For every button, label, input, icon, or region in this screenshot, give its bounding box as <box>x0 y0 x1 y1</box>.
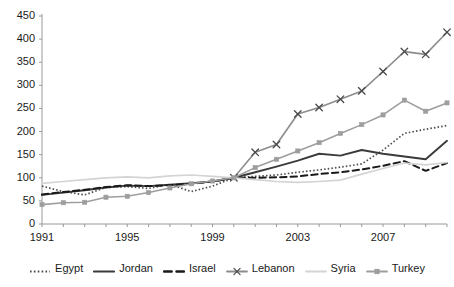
series-marker-turkey <box>402 98 406 102</box>
legend-item-turkey[interactable]: Turkey <box>366 262 425 274</box>
y-tick-label: 0 <box>0 218 35 229</box>
series-marker-turkey <box>445 101 449 105</box>
x-tick-label: 2007 <box>367 232 399 243</box>
y-tick-label: 450 <box>0 10 35 21</box>
legend-item-egypt[interactable]: Egypt <box>29 262 83 274</box>
series-marker-lebanon <box>337 96 344 103</box>
series-marker-turkey <box>83 200 87 204</box>
y-tick-label: 300 <box>0 79 35 90</box>
series-marker-turkey <box>210 179 214 183</box>
series-marker-turkey <box>317 141 321 145</box>
legend-swatch-turkey-icon <box>366 263 388 274</box>
x-tick-label: 1991 <box>26 232 58 243</box>
series-marker-turkey <box>40 202 44 206</box>
series-line-egypt <box>42 126 447 195</box>
plot-area <box>0 0 454 287</box>
x-tick-label: 2003 <box>282 232 314 243</box>
legend-item-syria[interactable]: Syria <box>305 262 356 274</box>
x-tick-label: 1999 <box>197 232 229 243</box>
series-marker-turkey <box>61 201 65 205</box>
series-marker-turkey <box>424 109 428 113</box>
legend-label: Turkey <box>392 262 425 274</box>
legend-label: Israel <box>189 262 216 274</box>
series-marker-turkey <box>338 131 342 135</box>
legend-swatch-egypt-icon <box>29 263 51 274</box>
y-tick-label: 50 <box>0 195 35 206</box>
legend-label: Jordan <box>119 262 153 274</box>
y-tick-label: 200 <box>0 126 35 137</box>
series-marker-turkey <box>274 157 278 161</box>
series-marker-turkey <box>253 166 257 170</box>
series-lines <box>40 29 450 207</box>
series-marker-lebanon <box>444 29 451 36</box>
series-marker-lebanon <box>380 68 387 75</box>
series-marker-turkey <box>189 182 193 186</box>
legend-label: Egypt <box>55 262 83 274</box>
x-tick-label: 1995 <box>111 232 143 243</box>
legend-item-lebanon[interactable]: Lebanon <box>226 262 295 274</box>
y-tick-label: 250 <box>0 102 35 113</box>
y-tick-label: 100 <box>0 172 35 183</box>
legend-label: Lebanon <box>252 262 295 274</box>
legend-item-israel[interactable]: Israel <box>163 262 216 274</box>
legend-swatch-lebanon-icon <box>226 263 248 274</box>
y-tick-label: 400 <box>0 33 35 44</box>
legend-swatch-syria-icon <box>305 263 327 274</box>
series-marker-turkey <box>296 149 300 153</box>
axes <box>39 14 447 227</box>
legend-swatch-jordan-icon <box>93 263 115 274</box>
legend-swatch-israel-icon <box>163 263 185 274</box>
series-marker-turkey <box>360 123 364 127</box>
legend-item-jordan[interactable]: Jordan <box>93 262 153 274</box>
line-chart: 050100150200250300350400450 199119951999… <box>0 0 454 287</box>
series-marker-turkey <box>168 186 172 190</box>
series-marker-turkey <box>125 194 129 198</box>
series-marker-turkey <box>232 176 236 180</box>
series-marker-lebanon <box>358 88 365 95</box>
series-marker-lebanon <box>273 141 280 148</box>
series-marker-turkey <box>381 113 385 117</box>
chart-legend: EgyptJordanIsraelLebanonSyriaTurkey <box>0 258 454 278</box>
legend-label: Syria <box>331 262 356 274</box>
y-tick-label: 150 <box>0 149 35 160</box>
series-marker-turkey <box>146 190 150 194</box>
series-marker-turkey <box>104 195 108 199</box>
y-tick-label: 350 <box>0 56 35 67</box>
